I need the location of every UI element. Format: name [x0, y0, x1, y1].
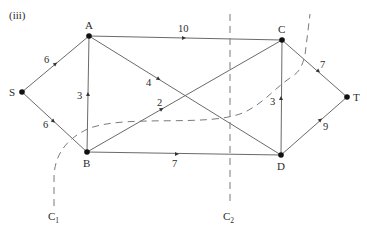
- weight-b-d: 7: [172, 158, 177, 169]
- weight-d-t: 9: [323, 121, 328, 132]
- weight-b-a: 3: [77, 90, 82, 101]
- weight-a-d: 4: [146, 77, 152, 88]
- node-label-s: S: [9, 86, 15, 98]
- weight-b-c: 2: [157, 97, 162, 108]
- node-a: [86, 33, 92, 39]
- edge-c-t: [282, 40, 347, 97]
- node-d: [278, 152, 284, 158]
- cut-c1-line: [54, 14, 310, 206]
- arrow-icon: [156, 76, 162, 82]
- arrow-icon: [279, 96, 283, 100]
- weight-c-t: 7: [320, 59, 325, 70]
- node-label-b: B: [83, 157, 90, 169]
- arrow-icon: [86, 92, 90, 96]
- cut-label-c2: C2: [223, 210, 234, 225]
- weight-s-a: 6: [44, 54, 49, 65]
- arrow-icon: [175, 152, 179, 156]
- arrow-icon: [182, 36, 186, 40]
- part-label: (iii): [9, 9, 26, 22]
- cuts: [54, 14, 310, 206]
- edge-b-c: [87, 40, 282, 152]
- node-label-t: T: [353, 91, 360, 103]
- node-b: [84, 149, 90, 155]
- network-flow-diagram: (iii): [0, 0, 367, 231]
- node-label-d: D: [277, 160, 285, 172]
- node-label-a: A: [85, 19, 93, 31]
- node-c: [279, 37, 285, 43]
- weight-a-c: 10: [178, 23, 189, 34]
- arrowheads: [51, 36, 324, 156]
- edge-b-d: [87, 152, 281, 155]
- node-t: [344, 94, 350, 100]
- weight-s-b: 6: [43, 119, 48, 130]
- edges: [22, 36, 347, 155]
- cut-label-c1: C1: [48, 210, 59, 225]
- edge-d-t: [281, 97, 347, 155]
- cut-labels: C1 C2: [48, 210, 234, 225]
- node-s: [19, 89, 25, 95]
- node-label-c: C: [278, 23, 285, 35]
- weight-d-c: 3: [270, 96, 275, 107]
